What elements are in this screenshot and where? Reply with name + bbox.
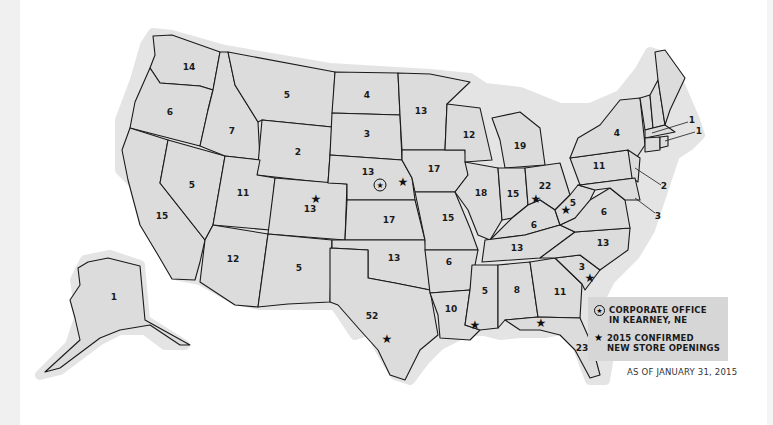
state-count-ny: 4 [614, 128, 620, 138]
legend-corporate-line1: CORPORATE OFFICE [609, 305, 707, 315]
callout-count-md: 3 [655, 211, 661, 221]
state-ak [45, 258, 190, 372]
state-count-fl: 23 [576, 343, 589, 353]
legend-new-stores-line1: 2015 CONFIRMED [607, 333, 720, 343]
star-icon: ★ [594, 333, 603, 343]
legend-corporate-office: ★ CORPORATE OFFICE IN KEARNEY, NE [594, 305, 707, 325]
star-icon: ★ [311, 193, 322, 205]
state-ct [645, 137, 660, 152]
state-count-va: 6 [601, 207, 607, 217]
state-count-ak: 1 [111, 292, 117, 302]
state-count-wi: 12 [463, 130, 476, 140]
state-count-ar: 6 [446, 257, 452, 267]
state-count-mn: 13 [415, 106, 428, 116]
corporate-office-icon: ★ [374, 179, 387, 192]
star-icon: ★ [398, 176, 409, 188]
star-icon: ★ [561, 204, 572, 216]
state-count-ia: 17 [428, 164, 441, 174]
star-icon: ★ [531, 193, 542, 205]
state-count-wa: 14 [183, 62, 196, 72]
star-icon: ★ [382, 333, 393, 345]
state-count-oh: 22 [539, 181, 552, 191]
state-az [200, 225, 268, 307]
state-ri [660, 136, 668, 148]
state-count-ne: 13 [362, 167, 375, 177]
state-count-sd: 3 [364, 129, 370, 139]
state-count-ky: 6 [531, 220, 537, 230]
state-count-mi: 19 [514, 141, 527, 151]
state-count-ca: 15 [156, 211, 169, 221]
state-count-az: 12 [227, 254, 240, 264]
callout-count-nj: 2 [661, 181, 667, 191]
state-count-la: 10 [445, 304, 458, 314]
callout-count-ri: 1 [696, 126, 702, 136]
legend-new-stores: ★ 2015 CONFIRMED NEW STORE OPENINGS [594, 333, 720, 353]
state-count-tn: 13 [511, 243, 524, 253]
state-count-ga: 11 [554, 287, 567, 297]
state-count-il: 18 [475, 188, 488, 198]
star-icon: ★ [585, 272, 596, 284]
state-count-wy: 2 [295, 147, 301, 157]
state-count-or: 6 [167, 107, 173, 117]
state-count-nc: 13 [597, 238, 610, 248]
state-count-nv: 5 [189, 180, 195, 190]
state-count-pa: 11 [593, 161, 606, 171]
state-count-mo: 15 [442, 213, 455, 223]
state-count-id: 7 [229, 126, 235, 136]
state-count-mt: 5 [284, 90, 290, 100]
state-count-nd: 4 [364, 90, 370, 100]
state-count-al: 8 [514, 285, 520, 295]
state-count-ms: 5 [482, 286, 488, 296]
legend-new-stores-line2: NEW STORE OPENINGS [607, 343, 720, 353]
state-count-ks: 17 [383, 215, 396, 225]
corporate-office-icon: ★ [594, 305, 605, 316]
as-of-date: AS OF JANUARY 31, 2015 [627, 367, 737, 377]
map-legend: ★ CORPORATE OFFICE IN KEARNEY, NE ★ 2015… [588, 297, 728, 361]
star-icon: ★ [470, 319, 481, 331]
state-count-nm: 5 [296, 263, 302, 273]
star-icon: ★ [536, 317, 547, 329]
state-count-ok: 13 [388, 253, 401, 263]
state-count-tx: 52 [366, 311, 379, 321]
callout-count-ma: 1 [689, 115, 695, 125]
state-count-ut: 11 [237, 188, 250, 198]
legend-corporate-line2: IN KEARNEY, NE [609, 315, 707, 325]
state-count-in: 15 [507, 189, 520, 199]
